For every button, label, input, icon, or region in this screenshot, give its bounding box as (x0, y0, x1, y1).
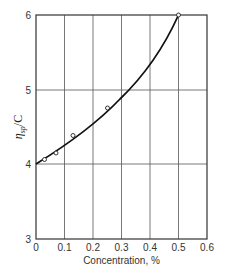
svg-text:3: 3 (25, 234, 31, 245)
svg-text:0: 0 (33, 242, 39, 253)
svg-text:0.1: 0.1 (58, 242, 72, 253)
y-axis-title: ηsp/C (11, 115, 27, 139)
chart: 6 5 4 3 0 0.1 0.2 0.3 0.4 0.5 0.6 Concen… (0, 0, 226, 275)
x-tick-labels: 0 0.1 0.2 0.3 0.4 0.5 0.6 (33, 242, 214, 253)
data-markers (43, 13, 181, 162)
svg-text:4: 4 (25, 159, 31, 170)
svg-text:0.5: 0.5 (172, 242, 186, 253)
fitted-curve (36, 15, 179, 164)
svg-text:0.6: 0.6 (200, 242, 214, 253)
svg-text:5: 5 (25, 85, 31, 96)
x-axis-title: Concentration, % (83, 255, 160, 266)
svg-text:6: 6 (25, 10, 31, 21)
grid (36, 15, 207, 239)
svg-text:0.3: 0.3 (115, 242, 129, 253)
svg-text:0.4: 0.4 (143, 242, 157, 253)
svg-text:ηsp/C: ηsp/C (11, 115, 27, 139)
svg-text:0.2: 0.2 (86, 242, 100, 253)
